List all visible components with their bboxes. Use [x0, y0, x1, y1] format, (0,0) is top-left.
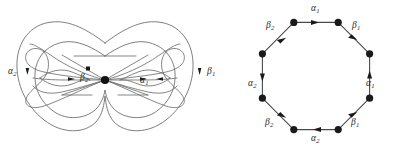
surface-label-alpha1: α1	[140, 76, 148, 86]
surface-label-beta2: β2	[80, 73, 88, 83]
octagon-arrow-bottom	[313, 127, 321, 132]
octagon-vertex	[290, 126, 297, 133]
octagon-label-edge-upper-right: β1	[352, 21, 360, 31]
octagon-label-edge-upper-left: β2	[266, 21, 274, 31]
octagon-label-edge-top: α1	[311, 4, 319, 14]
octagon-vertex	[335, 19, 342, 26]
octagon-vertex	[366, 95, 373, 102]
octagon-drawing	[259, 19, 373, 133]
octagon-arrow-upper-right	[348, 34, 357, 40]
octagon-label-edge-left: α2	[248, 79, 256, 89]
surface-arrow-beta2	[86, 67, 90, 71]
figure-root: α2 β2 α1 β1 α1 β1 α1 β1 α2 β2 α2 β2	[0, 0, 395, 151]
surface-label-alpha2: α2	[8, 67, 16, 77]
octagon-label-edge-bottom: α2	[311, 134, 319, 144]
surface-label-beta1: β1	[207, 67, 215, 77]
octagon-vertex	[290, 19, 297, 26]
octagon-vertex	[335, 126, 342, 133]
octagon-vertex	[259, 95, 266, 102]
octagon-arrow-top	[311, 20, 319, 25]
octagon-label-edge-lower-right: β1	[351, 118, 359, 128]
octagon-vertex	[366, 50, 373, 57]
surface-loop-beta2-return	[33, 80, 105, 93]
octagon-vertex	[259, 50, 266, 57]
surface-arrow-beta1	[198, 68, 202, 75]
genus-two-surface-drawing	[0, 0, 395, 151]
surface-arrow-alpha2	[26, 68, 30, 75]
surface-basepoint	[101, 76, 109, 84]
octagon-label-edge-right: α1	[366, 79, 374, 89]
octagon-label-edge-lower-left: β2	[265, 118, 273, 128]
surface-arrow-alpha1-return	[156, 77, 163, 81]
octagon-arrow-left	[260, 74, 265, 82]
